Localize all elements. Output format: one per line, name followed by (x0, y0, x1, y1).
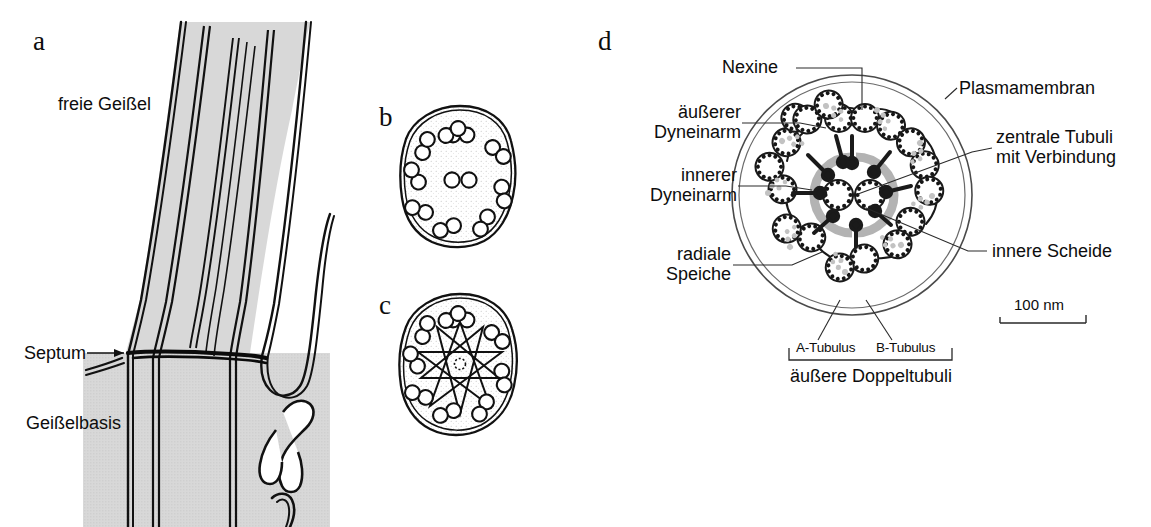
scale-bar (1000, 315, 1086, 323)
label-a-tubulus: A-Tubulus (796, 340, 855, 355)
label-b-tubulus: B-Tubulus (876, 340, 935, 355)
septum-arrow (87, 349, 124, 357)
panel-b-central-pair (444, 172, 476, 187)
label-septum: Septum (24, 343, 86, 363)
radial-spokes (793, 136, 911, 247)
label-free-flagellum: freie Geißel (58, 94, 151, 114)
panel-d-leader-lines (733, 68, 992, 340)
label-scale-bar: 100 nm (1014, 297, 1064, 314)
label-radial-spoke: radiale Speiche (601, 244, 731, 284)
outer-doublets (750, 85, 945, 285)
panel-letter-a: a (33, 28, 45, 55)
panel-letter-d: d (598, 28, 612, 55)
panel-letter-b: b (379, 104, 393, 131)
label-outer-doublets: äußere Doppeltubuli (741, 366, 1001, 386)
panel-letter-c: c (379, 292, 391, 319)
panel-c-drawing (399, 294, 516, 435)
label-inner-dynein-arm: innerer Dyneinarm (601, 165, 737, 205)
panel-c-spoke-star (418, 322, 502, 414)
inner-sheath (814, 157, 894, 233)
plasma-membrane-inner (739, 82, 965, 308)
label-outer-dynein-arm: äußerer Dyneinarm (601, 102, 741, 142)
figure-root: a b c d freie Geißel Septum Geißelbasis … (0, 0, 1151, 527)
panel-b-drawing (400, 106, 515, 247)
plasma-membrane-outer (732, 75, 972, 315)
nexin-links (786, 108, 937, 262)
dynein-arms (765, 99, 935, 275)
panel-d-drawing (732, 68, 1086, 360)
label-central-tubuli: zentrale Tubuli mit Verbindung (996, 127, 1116, 167)
label-nexine: Nexine (722, 57, 778, 77)
central-tubuli (823, 180, 885, 210)
label-plasma-membrane: Plasmamembran (959, 78, 1095, 98)
label-inner-sheath: innere Scheide (992, 241, 1112, 261)
label-flagellum-base: Geißelbasis (26, 413, 121, 433)
